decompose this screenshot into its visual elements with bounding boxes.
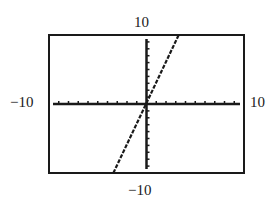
- graph-window: [0, 0, 280, 203]
- axes: [53, 39, 240, 169]
